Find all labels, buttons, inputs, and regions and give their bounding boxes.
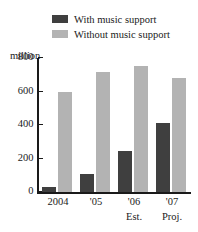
bar-group <box>118 58 156 192</box>
bar-group <box>42 58 80 192</box>
x-axis-label: '07Proj. <box>153 196 191 223</box>
y-tick-label-0: 0 <box>28 185 33 196</box>
bar-series-container <box>39 58 191 192</box>
x-axis-label-line2: Proj. <box>153 211 191 223</box>
x-axis-label-line1: '07 <box>166 196 178 207</box>
bar <box>96 72 110 192</box>
x-axis-label-line2: Est. <box>115 211 153 223</box>
legend-label-with-music-support: With music support <box>74 14 156 25</box>
legend-item-without-music-support: Without music support <box>52 28 170 40</box>
bar <box>42 187 56 192</box>
y-tick-label-200: 200 <box>18 152 34 163</box>
plot-area: 8006004002000 <box>37 58 191 192</box>
legend-item-with-music-support: With music support <box>52 13 170 25</box>
bar <box>156 123 170 193</box>
x-axis-label-line1: '06 <box>128 196 140 207</box>
x-axis-label: 2004 <box>39 196 77 208</box>
bar <box>172 78 186 192</box>
y-tick-label-400: 400 <box>18 118 34 129</box>
x-axis-label: '06Est. <box>115 196 153 223</box>
bar-chart-figure: With music support Without music support… <box>0 0 198 232</box>
bar-group <box>156 58 194 192</box>
x-axis-label: '05 <box>77 196 115 208</box>
x-axis-line <box>37 192 191 194</box>
bar-group <box>80 58 118 192</box>
legend-swatch-light <box>52 30 68 38</box>
bar <box>80 174 94 192</box>
x-axis-labels: 2004'05'06Est.'07Proj. <box>39 196 191 230</box>
bar <box>58 92 72 193</box>
bar <box>118 151 132 192</box>
legend-swatch-dark <box>52 15 68 23</box>
x-axis-label-line1: '05 <box>90 196 102 207</box>
y-tick-label-800: 800 <box>18 51 34 62</box>
y-tick-label-600: 600 <box>18 85 34 96</box>
chart-legend: With music support Without music support <box>52 13 170 40</box>
x-axis-label-line1: 2004 <box>48 196 69 207</box>
legend-label-without-music-support: Without music support <box>74 29 170 40</box>
bar <box>134 66 148 192</box>
